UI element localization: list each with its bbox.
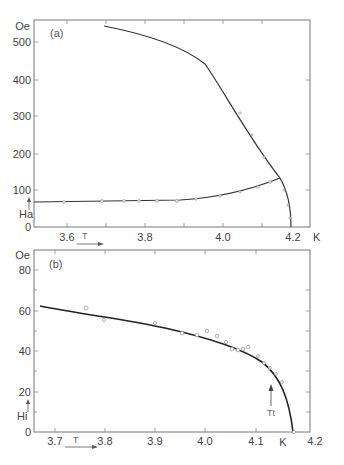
x-unit-a: K (313, 231, 321, 243)
y-tick-label: 100 (13, 184, 31, 196)
x-tick-label: 3.8 (137, 231, 152, 243)
high-t-boundary-curve (280, 178, 291, 227)
x-tick-label: 4.1 (248, 435, 263, 447)
x-tick-label: 3.6 (59, 231, 74, 243)
svg-text:Tt: Tt (267, 408, 275, 418)
panel-label-a: (a) (50, 27, 63, 39)
x-tick-label: 3.8 (97, 435, 112, 447)
tt-annotation: Tt (267, 384, 275, 418)
plot-frame-a (34, 20, 310, 227)
lower-boundary-curve (34, 178, 280, 202)
figure: Oe 500 400 300 200 100 0 Ha 3.6 3.8 4.0 … (0, 0, 344, 465)
svg-text:Ha: Ha (19, 208, 34, 220)
y-tick-label: 300 (13, 110, 31, 122)
y-tick-label: 40 (19, 345, 31, 357)
x-tick-label: 3.9 (147, 435, 162, 447)
x-tick-label: 4.0 (215, 231, 230, 243)
y-axis-label-b: Hi (17, 399, 30, 422)
y-tick-label: 0 (25, 426, 31, 438)
y-tick-label: 500 (13, 36, 31, 48)
x-tick-label: 4.2 (307, 435, 322, 447)
fit-curve (40, 306, 293, 432)
y-ticks-b (34, 270, 310, 412)
y-tick-label: 400 (13, 74, 31, 86)
data-points-a (63, 112, 292, 219)
y-tick-label: 60 (19, 305, 31, 317)
x-tick-label: 3.7 (47, 435, 62, 447)
y-tick-label: 200 (13, 148, 31, 160)
panel-label-b: (b) (49, 258, 62, 270)
y-axis-label-a: Ha (19, 197, 34, 220)
panel-a: Oe 500 400 300 200 100 0 Ha 3.6 3.8 4.0 … (13, 20, 321, 246)
svg-text:Hi: Hi (17, 410, 27, 422)
x-tick-label: 4.2 (285, 231, 300, 243)
x-unit-b: K (279, 436, 287, 448)
y-tick-label: 80 (19, 264, 31, 276)
plot-frame-b (34, 250, 310, 432)
data-points-b (84, 306, 296, 434)
panel-b: Oe 80 60 40 20 0 Hi 3.7 3.8 3.9 4.0 4.1 … (15, 249, 322, 449)
x-tick-label: 4.0 (197, 435, 212, 447)
x-axis-label-a: T (77, 231, 104, 246)
y-ticks-a (34, 42, 310, 190)
y-unit-b: Oe (15, 249, 30, 261)
upper-boundary-curve (104, 26, 280, 178)
x-axis-label-b: T (65, 435, 98, 449)
y-unit-a: Oe (15, 20, 30, 32)
svg-text:T: T (82, 231, 88, 241)
x-ticks-a (67, 20, 262, 227)
y-tick-label: 0 (25, 221, 31, 233)
y-tick-label: 20 (19, 386, 31, 398)
svg-text:T: T (73, 435, 79, 445)
